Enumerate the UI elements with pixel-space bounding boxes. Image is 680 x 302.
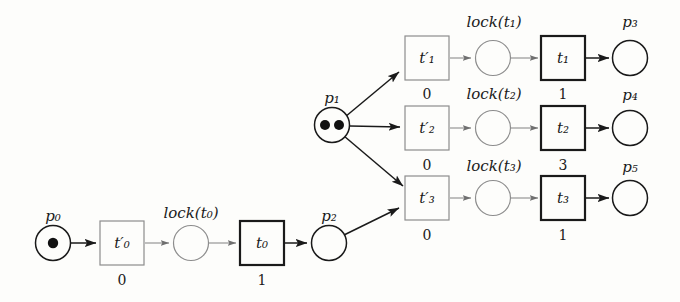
transition-label-t3: t₃ — [557, 191, 569, 206]
place-label-p1: p₁ — [324, 91, 340, 106]
petri-net-graphics — [0, 0, 680, 302]
place-label-p4: p₄ — [622, 88, 638, 103]
transition-weight-t1-prime: 0 — [423, 87, 432, 101]
arc-p1-t3prime — [344, 136, 403, 186]
transition-label-t0: t₀ — [256, 236, 268, 251]
transition-weight-t2-prime: 0 — [423, 158, 432, 172]
transition-weight-t2: 3 — [559, 158, 568, 172]
token-p1-1 — [320, 120, 330, 130]
place-p5[interactable] — [613, 181, 648, 216]
place-p2[interactable] — [312, 226, 347, 261]
transition-weight-t3: 1 — [559, 228, 568, 242]
place-p3[interactable] — [613, 41, 648, 76]
token-p1-2 — [334, 120, 344, 130]
petri-net-diagram: p₀ p₁ p₂ p₃ p₄ p₅ lock(t₀) lock(t₁) lock… — [0, 0, 680, 302]
place-p1[interactable] — [315, 108, 350, 143]
place-lock-t3[interactable] — [476, 181, 511, 216]
place-label-p3: p₃ — [622, 15, 638, 30]
token-p0-1 — [48, 238, 58, 248]
transition-weight-t1: 1 — [559, 87, 568, 101]
place-label-lock-t2: lock(t₂) — [466, 87, 521, 102]
place-label-lock-t3: lock(t₃) — [466, 159, 521, 174]
transition-label-t2: t₂ — [557, 121, 569, 136]
arc-layer — [71, 58, 609, 243]
transition-weight-t0-prime: 0 — [118, 273, 127, 287]
place-label-lock-t0: lock(t₀) — [163, 206, 218, 221]
place-lock-t2[interactable] — [476, 111, 511, 146]
transition-label-t3-prime: t′₃ — [419, 191, 434, 206]
transition-label-t1: t₁ — [557, 51, 569, 66]
place-p4[interactable] — [613, 111, 648, 146]
place-lock-t0[interactable] — [174, 226, 209, 261]
place-label-lock-t1: lock(t₁) — [466, 15, 521, 30]
arc-p1-t1prime — [345, 72, 399, 117]
place-lock-t1[interactable] — [476, 41, 511, 76]
transition-weight-t0: 1 — [258, 273, 267, 287]
arc-p2-t3prime — [344, 208, 399, 235]
transition-label-t0-prime: t′₀ — [114, 236, 129, 251]
place-label-p5: p₅ — [622, 160, 638, 175]
place-label-p2: p₂ — [321, 209, 337, 224]
transition-label-t1-prime: t′₁ — [419, 51, 434, 66]
transition-label-t2-prime: t′₂ — [419, 121, 434, 136]
arc-p1-t2prime — [350, 126, 400, 127]
transition-layer — [100, 36, 585, 265]
transition-weight-t3-prime: 0 — [423, 228, 432, 242]
place-label-p0: p₀ — [45, 209, 61, 224]
